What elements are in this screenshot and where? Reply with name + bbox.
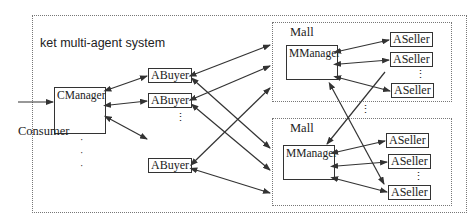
- arrows-layer: [0, 0, 473, 224]
- diagram-canvas: ket multi-agent system Mall Mall CManage…: [0, 0, 473, 224]
